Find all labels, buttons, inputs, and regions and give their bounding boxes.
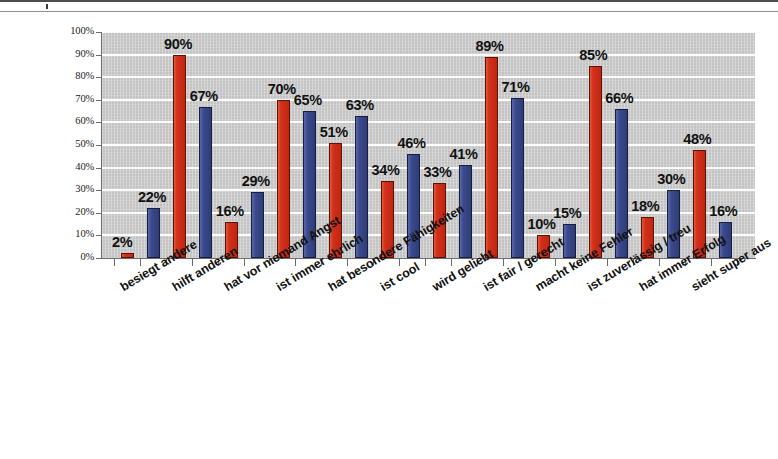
bar-value-label: 41% [449,146,477,162]
bar-chart-figure: 0%10%20%30%40%50%60%70%80%90%100% 2%22%9… [0,0,778,459]
bar-value-label: 10% [527,216,555,232]
y-axis-tick [96,145,102,146]
bar-value-label: 51% [320,124,348,140]
bar-value-label: 15% [553,205,581,221]
x-axis-tick [114,259,115,266]
x-axis-tick [451,259,452,266]
bar-value-label: 46% [398,135,426,151]
y-axis-tick-label: 10% [48,228,94,239]
x-axis-tick [607,259,608,266]
bar-value-label: 16% [709,203,737,219]
bar-value-label: 70% [268,81,296,97]
y-axis-tick [96,190,102,191]
gridline [102,54,755,56]
x-axis-tick [399,259,400,266]
x-axis-tick [140,259,141,266]
y-axis-tick-label: 80% [48,70,94,81]
bar-value-label: 30% [657,171,685,187]
x-axis-tick [503,259,504,266]
x-axis-tick [244,259,245,266]
y-axis-tick [96,100,102,101]
bar-value-label: 90% [164,36,192,52]
x-axis-tick [347,259,348,266]
y-axis-tick-label: 0% [48,251,94,262]
bar-value-label: 71% [501,79,529,95]
y-axis-tick [96,213,102,214]
x-axis-tick [425,259,426,266]
y-axis-tick [96,77,102,78]
y-axis-tick-label: 70% [48,93,94,104]
bar-value-label: 67% [190,88,218,104]
x-axis-tick [711,259,712,266]
bar-value-label: 2% [112,234,132,250]
y-axis-tick-label: 100% [48,25,94,36]
y-axis-tick [96,55,102,56]
bar-blue-series-7 [511,98,524,258]
y-axis-tick-label: 60% [48,115,94,126]
bar-blue-series-2 [251,192,264,258]
bar-value-label: 18% [631,198,659,214]
y-axis-tick-label: 40% [48,161,94,172]
x-axis-tick [192,259,193,266]
bar-value-label: 48% [683,131,711,147]
bar-value-label: 16% [216,203,244,219]
bar-value-label: 33% [424,164,452,180]
bar-value-label: 63% [346,97,374,113]
bar-blue-series-0 [147,208,160,258]
y-axis-tick [96,32,102,33]
bar-blue-series-1 [199,107,212,258]
y-axis-tick-label: 30% [48,183,94,194]
x-axis-tick [659,259,660,266]
x-axis-tick [555,259,556,266]
x-axis-line [101,258,756,259]
x-axis-tick [295,259,296,266]
bar-value-label: 65% [294,92,322,108]
bar-blue-series-8 [563,224,576,258]
bar-red-series-9 [589,66,602,258]
bar-value-label: 34% [372,162,400,178]
gridline [102,31,755,33]
y-axis-tick [96,168,102,169]
y-axis-tick-label: 50% [48,138,94,149]
y-axis-tick [96,235,102,236]
y-axis-tick-label: 90% [48,48,94,59]
y-axis-tick [96,122,102,123]
bar-red-series-1 [173,55,186,258]
bar-value-label: 89% [475,38,503,54]
bar-red-series-3 [277,100,290,258]
bar-value-label: 29% [242,173,270,189]
bar-red-series-7 [485,57,498,258]
bar-value-label: 66% [605,90,633,106]
gridline [102,76,755,78]
bar-value-label: 22% [138,189,166,205]
y-axis-tick-label: 20% [48,206,94,217]
bar-value-label: 85% [579,47,607,63]
